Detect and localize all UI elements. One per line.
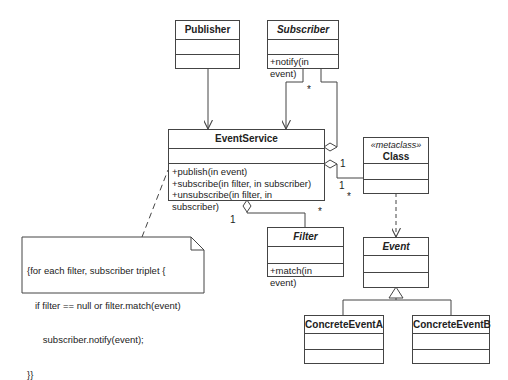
class-publisher[interactable]: Publisher bbox=[175, 20, 240, 69]
class-name: ConcreteEventA bbox=[305, 316, 383, 334]
note-line: {for each filter, subscriber triplet { bbox=[27, 265, 199, 277]
attributes-compartment bbox=[364, 256, 428, 273]
note-pseudocode: {for each filter, subscriber triplet { i… bbox=[22, 237, 204, 293]
note-line: }} bbox=[27, 369, 199, 380]
class-filter[interactable]: Filter +match(in event) bbox=[267, 227, 344, 277]
operation: +subscribe(in filter, in subscriber) bbox=[172, 178, 321, 190]
attributes-compartment bbox=[176, 40, 239, 55]
class-name: Filter bbox=[268, 228, 343, 247]
class-name: Publisher bbox=[176, 21, 239, 40]
class-name: Subscriber bbox=[268, 21, 338, 40]
multiplicity-label: 1 bbox=[230, 215, 236, 225]
attributes-compartment bbox=[268, 247, 343, 264]
stereotype: «metaclass» bbox=[364, 140, 428, 151]
class-name: ConcreteEventB bbox=[413, 316, 489, 334]
multiplicity-label: 1 bbox=[340, 159, 346, 169]
attributes-compartment bbox=[413, 334, 489, 350]
class-concrete-event-b[interactable]: ConcreteEventB bbox=[412, 315, 490, 364]
attributes-compartment bbox=[268, 40, 338, 55]
multiplicity-label: * bbox=[307, 85, 311, 95]
operation: +publish(in event) bbox=[172, 166, 321, 178]
class-name: Class bbox=[383, 151, 410, 162]
class-name-compartment: «metaclass» Class bbox=[364, 138, 428, 164]
multiplicity-label: * bbox=[318, 207, 322, 217]
class-metaclass-class[interactable]: «metaclass» Class bbox=[363, 137, 429, 194]
class-concrete-event-a[interactable]: ConcreteEventA bbox=[304, 315, 384, 364]
operation: +notify(in event) bbox=[268, 55, 338, 80]
class-event[interactable]: Event bbox=[363, 237, 429, 288]
class-subscriber[interactable]: Subscriber +notify(in event) bbox=[267, 20, 339, 69]
note-line: subscriber.notify(event); bbox=[27, 334, 199, 346]
operation: +match(in event) bbox=[268, 264, 343, 289]
operation: +unsubscribe(in filter, in subscriber) bbox=[172, 189, 321, 212]
attributes-compartment bbox=[364, 164, 428, 180]
attributes-compartment bbox=[169, 149, 324, 164]
multiplicity-label: * bbox=[347, 192, 351, 202]
class-name: Event bbox=[364, 238, 428, 256]
class-event-service[interactable]: EventService +publish(in event) +subscri… bbox=[168, 129, 325, 201]
operations-compartment: +publish(in event) +subscribe(in filter,… bbox=[169, 164, 324, 214]
note-line: if filter == null or filter.match(event) bbox=[27, 300, 199, 312]
multiplicity-label: 1 bbox=[339, 181, 345, 191]
class-name: EventService bbox=[169, 130, 324, 149]
attributes-compartment bbox=[305, 334, 383, 350]
